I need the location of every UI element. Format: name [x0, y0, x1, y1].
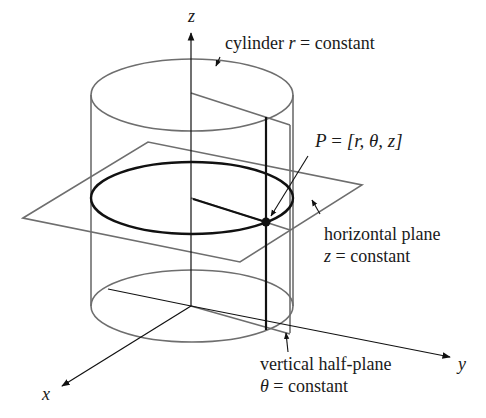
x-axis-label: x — [41, 384, 50, 404]
z-axis-label: z — [187, 6, 195, 26]
horizontal-plane-label-line2: z = constant — [323, 246, 410, 266]
cylinder-label-arrow — [216, 57, 220, 66]
point-label: P = [r, θ, z] — [314, 130, 403, 151]
x-axis — [62, 306, 191, 386]
y-axis-behind — [108, 289, 191, 306]
cylinder-top-ellipse — [91, 59, 293, 131]
cylindrical-coordinates-diagram: z y x cylinder r = constant P = [r, θ, z… — [0, 0, 486, 418]
cylinder-label: cylinder r = constant — [225, 33, 375, 53]
radius-line — [193, 199, 266, 222]
point-p — [262, 218, 271, 227]
vertical-plane-label-arrow — [286, 333, 288, 352]
y-axis-label: y — [456, 354, 466, 374]
vertical-plane-label-line2: θ = constant — [260, 376, 348, 396]
vertical-plane-label-line1: vertical half-plane — [260, 354, 391, 374]
cylinder — [91, 59, 293, 342]
y-axis — [191, 306, 450, 357]
horizontal-plane-label-line1: horizontal plane — [324, 224, 440, 244]
horizontal-plane — [23, 142, 362, 262]
horizontal-plane-label-arrow — [312, 200, 320, 214]
